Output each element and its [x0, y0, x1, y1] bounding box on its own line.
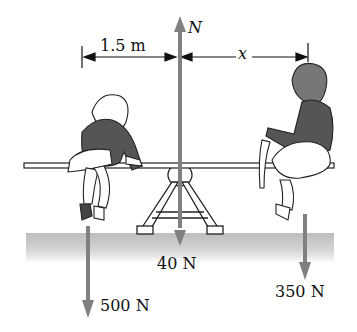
seesaw-diagram: 1.5 m x N 40 N 500 N 350 N — [0, 0, 357, 332]
right-child-figure — [259, 63, 333, 220]
left-distance-label: 1.5 m — [100, 36, 146, 55]
left-child-weight-label: 500 N — [100, 296, 150, 315]
right-distance-label: x — [238, 44, 247, 63]
normal-force-label: N — [188, 18, 202, 37]
left-child-figure — [68, 95, 142, 220]
normal-force-arrow — [174, 16, 186, 228]
seesaw-weight-label: 40 N — [157, 254, 196, 273]
right-child-weight-label: 350 N — [275, 282, 325, 301]
